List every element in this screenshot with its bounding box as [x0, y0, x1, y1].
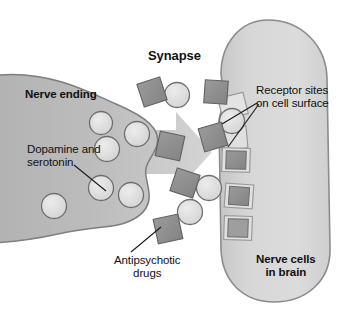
label-nerve-cells-in-brain: Nerve cells in brain	[256, 253, 316, 279]
label-dopamine-serotonin: Dopamine and serotonin	[27, 143, 101, 169]
receptor-notch-filled	[222, 148, 251, 173]
label-antipsychotic-drugs: Antipsychotic drugs	[114, 254, 180, 280]
vesicle	[165, 83, 190, 108]
vesicle	[90, 112, 113, 135]
vesicle	[125, 122, 150, 147]
synapse-diagram: Synapse Nerve ending Dopamine and seroto…	[0, 0, 345, 318]
drug-square	[153, 214, 183, 244]
drug-square	[204, 80, 229, 105]
vesicle	[42, 194, 67, 219]
antipsychotic-leader-line	[131, 227, 161, 252]
vesicle	[119, 183, 144, 208]
drug-square	[155, 131, 185, 161]
label-receptor-sites: Receptor sites on cell surface	[256, 84, 329, 110]
drug-square	[137, 77, 167, 107]
vesicle	[197, 176, 222, 201]
vesicle	[178, 200, 203, 225]
label-nerve-ending: Nerve ending	[25, 88, 97, 101]
receptor-notch-filled	[224, 183, 254, 209]
label-synapse: Synapse	[148, 49, 201, 64]
receptor-notch-filled	[224, 216, 253, 241]
